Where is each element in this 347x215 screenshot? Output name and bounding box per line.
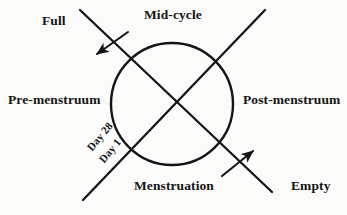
empty-direction-arrow-icon bbox=[222, 151, 253, 176]
label-empty: Empty bbox=[291, 179, 331, 193]
label-menstruation: Menstruation bbox=[134, 179, 214, 193]
label-mid-cycle: Mid-cycle bbox=[144, 8, 202, 22]
label-full: Full bbox=[42, 14, 66, 28]
label-post-menstruum: Post-menstruum bbox=[243, 93, 340, 107]
cycle-diagram: Mid-cycle Full Pre-menstruum Post-menstr… bbox=[0, 0, 347, 215]
label-pre-menstruum: Pre-menstruum bbox=[8, 93, 101, 107]
